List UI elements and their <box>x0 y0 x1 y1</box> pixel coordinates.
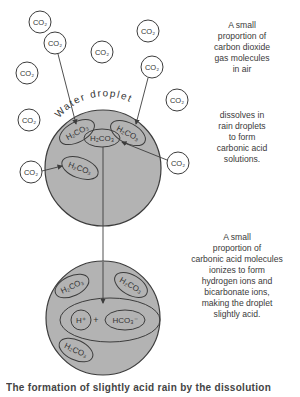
figure-caption: The formation of slightly acid rain by t… <box>6 382 296 393</box>
annotation-ionize: A small proportion of carbonic acid mole… <box>176 232 298 320</box>
annotation-dissolve: dissolves in rain droplets to form carbo… <box>190 110 294 165</box>
svg-text:CO₂: CO₂ <box>22 116 36 125</box>
svg-text:CO₂: CO₂ <box>171 159 185 168</box>
svg-text:CO₂: CO₂ <box>24 168 38 177</box>
svg-text:CO₂: CO₂ <box>141 27 155 36</box>
co2-molecule: CO₂ <box>137 20 159 42</box>
co2-molecule: CO₂ <box>44 32 66 54</box>
annotation-air: A small proportion of carbon dioxide gas… <box>190 20 294 75</box>
svg-text:CO₂: CO₂ <box>20 69 34 78</box>
svg-text:CO₂: CO₂ <box>33 18 47 27</box>
co2-molecule: CO₂ <box>166 89 188 111</box>
svg-text:CO₂: CO₂ <box>170 96 184 105</box>
co2-molecule: CO₂ <box>167 152 189 174</box>
bicarbonate-ion: HCO₃⁻ <box>112 316 137 325</box>
co2-molecule: CO₂ <box>20 161 42 183</box>
svg-text:CO₂: CO₂ <box>145 63 159 72</box>
co2-molecule: CO₂ <box>141 56 163 78</box>
arrow <box>136 78 148 124</box>
svg-text:H₂CO₃: H₂CO₃ <box>90 134 114 143</box>
co2-molecule: CO₂ <box>16 62 38 84</box>
svg-text:CO₂: CO₂ <box>48 39 62 48</box>
hydrogen-ion: H⁺ <box>76 316 86 325</box>
plus-sign: + <box>93 315 98 325</box>
co2-molecule: CO₂ <box>18 109 40 131</box>
co2-molecule: CO₂ <box>91 41 113 63</box>
svg-text:CO₂: CO₂ <box>95 48 109 57</box>
co2-molecule: CO₂ <box>29 11 51 33</box>
